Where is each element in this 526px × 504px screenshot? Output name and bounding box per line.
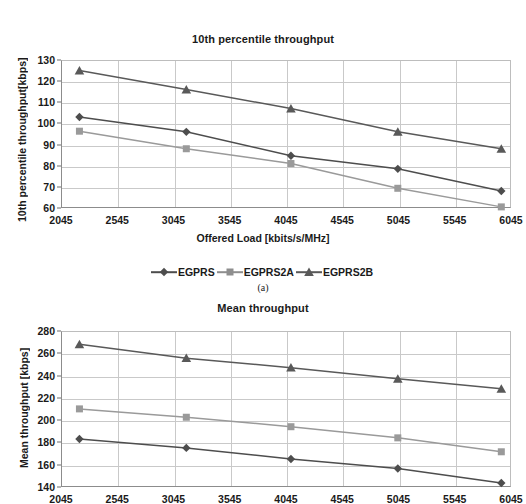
legend-item-egprs2a: EGPRS2A [217,266,296,278]
y-axis-tick-label: 60 [43,202,55,214]
data-point-egprs [75,435,83,443]
x-axis-tick-label: 4045 [274,214,297,226]
x-axis-tick-label: 3045 [162,214,185,226]
data-point-egprs2a [394,434,401,441]
y-axis-tick-label: 110 [38,96,55,108]
data-point-egprs2a [183,145,190,152]
data-point-egprs [182,128,190,136]
subfigure-caption-a: (a) [0,282,526,293]
data-point-egprs2a [498,448,505,455]
data-point-egprs2a [394,185,401,192]
y-axis-tick-label: 80 [43,160,55,172]
series-line-egprs2a [79,409,501,452]
y-axis-tick-label: 240 [37,370,55,382]
legend-label: EGPRS2A [243,266,296,278]
y-axis-tick-label: 130 [37,54,55,66]
x-axis-tick-label: 5545 [443,493,466,504]
y-axis-tick-mark [57,420,61,421]
chart-legend: EGPRSEGPRS2AEGPRS2B [0,266,526,278]
x-axis-tick-label: 6045 [499,493,522,504]
x-axis-tick-label: 3545 [218,214,241,226]
chart-title-b: Mean throughput [0,302,526,314]
y-axis-tick-label: 90 [43,139,55,151]
y-axis-tick-mark [57,442,61,443]
y-axis-tick-label: 160 [37,459,55,471]
x-axis-tick-label: 6045 [499,214,522,226]
x-axis-tick-label: 4545 [331,214,354,226]
data-point-egprs [287,455,295,463]
legend-marker-diamond-icon [151,266,177,278]
y-axis-tick-label: 120 [37,75,55,87]
y-axis-tick-mark [57,397,61,398]
x-axis-tick-label: 3545 [218,493,241,504]
chart-10th-percentile: 10th percentile throughput 10th percenti… [0,0,526,258]
y-axis-tick-mark [57,165,61,166]
y-axis-tick-label: 180 [37,436,55,448]
data-point-egprs [497,479,505,487]
y-axis-tick-mark [57,487,61,488]
y-axis-tick-mark [57,353,61,354]
x-axis-tick-label: 4045 [274,493,297,504]
data-point-egprs2a [498,203,505,210]
series-layer [62,61,512,209]
diamond-icon [157,265,171,279]
x-axis-tick-label: 2545 [106,214,129,226]
y-axis-tick-label: 280 [37,325,55,337]
y-axis-tick-mark [57,60,61,61]
data-point-egprs2b [75,66,85,75]
data-point-egprs [182,444,190,452]
y-axis-tick-label: 100 [37,117,55,129]
data-point-egprs [75,113,83,121]
x-axis-tick-label: 5045 [387,493,410,504]
data-point-egprs [394,464,402,472]
x-axis-tick-label: 5045 [387,214,410,226]
x-axis-tick-label: 2045 [49,493,72,504]
y-axis-label-b: Mean throughput [kbps] [18,333,30,483]
y-axis-tick-mark [57,375,61,376]
y-axis-tick-label: 140 [37,481,55,493]
y-axis-tick-mark [57,208,61,209]
y-axis-tick-mark [57,81,61,82]
data-point-egprs2a [287,160,294,167]
series-line-egprs2a [79,131,501,207]
legend-label: EGPRS2B [322,266,375,278]
y-axis-tick-label: 260 [37,347,55,359]
x-axis-tick-label: 2545 [106,493,129,504]
data-point-egprs [497,187,505,195]
x-axis-tick-label: 5545 [443,214,466,226]
data-point-egprs2a [76,128,83,135]
x-axis-tick-label: 3045 [162,493,185,504]
x-axis-label-a: Offered Load [kbits/s/MHz] [0,232,526,244]
plot-area-a [61,60,511,208]
chart-mean-throughput: Mean throughput Mean throughput [kbps] 1… [0,298,526,504]
data-point-egprs2a [183,414,190,421]
x-axis-tick-label: 2045 [49,214,72,226]
triangle-icon [302,265,316,279]
plot-area-b [61,331,511,487]
square-icon [223,265,237,279]
y-axis-tick-mark [57,144,61,145]
y-axis-tick-mark [57,186,61,187]
legend-marker-square-icon [217,266,243,278]
legend-item-egprs: EGPRS [151,266,217,278]
y-axis-tick-label: 70 [43,181,55,193]
y-axis-tick-mark [57,102,61,103]
legend-label: EGPRS [177,266,217,278]
y-axis-tick-label: 200 [37,414,55,426]
legend-item-egprs2b: EGPRS2B [296,266,375,278]
data-point-egprs [287,152,295,160]
chart-title-a: 10th percentile throughput [0,33,526,45]
y-axis-tick-mark [57,331,61,332]
y-axis-label-a: 10th percentile throughput[kbps] [16,55,28,225]
legend-marker-triangle-icon [296,266,322,278]
x-axis-tick-label: 4545 [331,493,354,504]
data-point-egprs [394,165,402,173]
series-layer [62,332,512,488]
y-axis-tick-mark [57,464,61,465]
y-axis-tick-mark [57,123,61,124]
figure-root: 10th percentile throughput 10th percenti… [0,0,526,504]
data-point-egprs2a [76,405,83,412]
y-axis-tick-label: 220 [37,392,55,404]
data-point-egprs2b [75,340,85,349]
data-point-egprs2a [287,423,294,430]
